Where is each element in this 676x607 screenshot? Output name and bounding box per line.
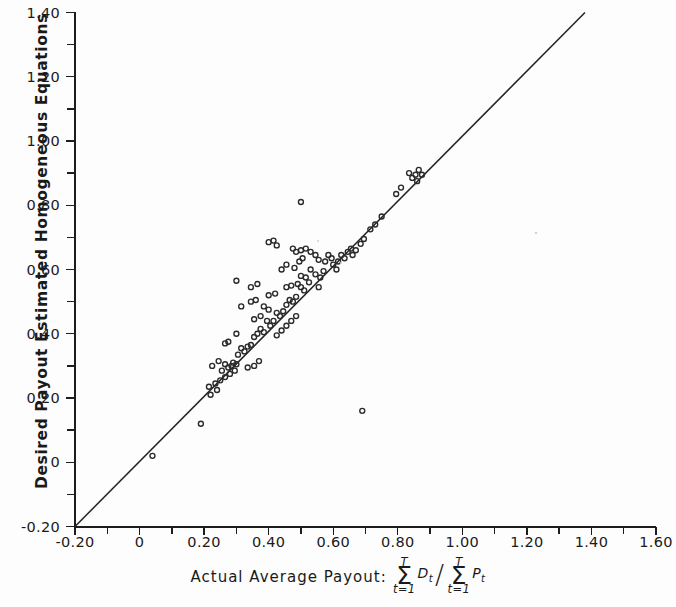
scatter-point [252,317,257,322]
y-axis-tick [67,301,75,302]
scatter-point [308,249,313,254]
scatter-point [274,310,279,315]
x-axis-tick-label: -0.20 [55,534,94,550]
scatter-point [223,375,228,380]
scatter-point [265,318,270,323]
scatter-point [223,341,228,346]
scatter-point [227,371,232,376]
scatter-point [231,360,236,365]
x-axis-tick-label: 0 [135,534,145,550]
scatter-point [350,253,355,258]
scatter-point [229,363,234,368]
scatter-point [300,256,305,261]
x-axis-tick-label: 0.80 [381,534,415,550]
division-slash: / [433,559,447,590]
y-axis-tick [66,76,75,77]
y-axis-tick-label: 1.20 [0,69,60,85]
scatter-point [353,248,358,253]
plot-data-layer [0,0,676,607]
denominator-summation: T Σ t=1 [447,557,472,596]
scatter-point [245,344,250,349]
y-axis-tick [66,397,75,398]
scatter-point [284,262,289,267]
scatter-point [358,241,363,246]
scatter-point [261,304,266,309]
scatter-point [407,171,412,176]
y-axis-tick-label: -0.20 [0,519,60,535]
scatter-point [298,285,303,290]
scatter-point [326,253,331,258]
scatter-point [248,299,253,304]
scatter-point [290,246,295,251]
y-axis-tick-label: 1.40 [0,5,60,21]
scatter-point [316,257,321,262]
scatter-point [271,318,276,323]
scatter-point [336,259,341,264]
scatter-point [223,362,228,367]
y-axis-tick-label: 0.60 [0,262,60,278]
scatter-point [361,236,366,241]
scatter-point [256,359,261,364]
scatter-plot-figure: Desired Payout Estimated Homogeneous Equ… [0,0,676,607]
scatter-point [215,387,220,392]
y-axis-tick [66,462,75,463]
scatter-point [303,275,308,280]
scatter-point [284,302,289,307]
scatter-point [274,333,279,338]
y-axis-tick-label: 0.20 [0,390,60,406]
scatter-point [399,185,404,190]
scatter-point [266,307,271,312]
y-axis-tick [66,333,75,334]
scatter-point [342,256,347,261]
x-axis-tick [171,527,172,534]
y-axis-tick [66,526,75,527]
scatter-point [236,352,241,357]
y-axis-tick [67,44,75,45]
x-axis-tick [494,527,495,534]
x-axis-tick-label: 0.20 [187,534,221,550]
scatter-point [281,309,286,314]
scatter-point [234,362,239,367]
scatter-point [360,408,365,413]
scatter-point [419,172,424,177]
scatter-point [245,365,250,370]
scatter-point [252,334,257,339]
scatter-point [271,238,276,243]
scatter-point [279,267,284,272]
x-axis-tick-label: 0.60 [316,534,350,550]
scatter-point [368,227,373,232]
denominator-variable-symbol: P [472,565,481,581]
scatter-point [255,281,260,286]
scatter-point [334,267,339,272]
scatter-point [261,330,266,335]
scatter-point [313,253,318,258]
scatter-point [266,240,271,245]
scatter-point [198,421,203,426]
y-axis-label: Desired Payout Estimated Homogeneous Equ… [33,19,51,489]
x-axis-tick-label: 1.60 [639,534,673,550]
scatter-point [258,314,263,319]
scan-speck [340,262,342,264]
scatter-point [226,365,231,370]
x-axis-tick [365,527,366,534]
scatter-point [279,328,284,333]
x-axis-tick [623,527,624,534]
scatter-markers-group [150,167,425,458]
scatter-point [284,323,289,328]
scatter-point [248,285,253,290]
y-axis-tick [67,172,75,173]
scatter-point [307,280,312,285]
scatter-point [302,288,307,293]
x-axis-tick [236,527,237,534]
scatter-point [234,331,239,336]
scatter-point [239,304,244,309]
y-axis-tick [66,269,75,270]
scatter-point [268,323,273,328]
x-axis-tick-label: 1.20 [510,534,544,550]
denominator-sigma-lower-limit: t=1 [448,584,471,596]
identity-reference-line [75,13,585,527]
scatter-point [294,314,299,319]
scatter-point [290,299,295,304]
scan-speck [535,232,537,234]
scatter-point [345,249,350,254]
